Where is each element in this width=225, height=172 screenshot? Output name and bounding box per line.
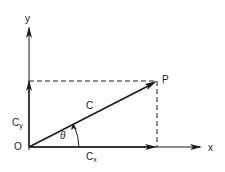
y-axis-label: y bbox=[25, 14, 30, 24]
cy-label: Cy bbox=[12, 118, 23, 131]
cx-label: Cx bbox=[86, 152, 97, 165]
origin-label: O bbox=[14, 142, 22, 152]
cx-label-sub: x bbox=[93, 156, 97, 163]
cy-label-sub: y bbox=[19, 122, 23, 129]
vector-c-label: C bbox=[86, 101, 93, 111]
angle-theta-label: θ bbox=[60, 131, 65, 141]
vector-diagram bbox=[0, 0, 225, 172]
point-p-label: P bbox=[162, 75, 169, 85]
x-axis-label: x bbox=[208, 143, 213, 153]
vector-c-arrowhead-icon bbox=[145, 81, 157, 90]
vector-c bbox=[29, 84, 152, 147]
